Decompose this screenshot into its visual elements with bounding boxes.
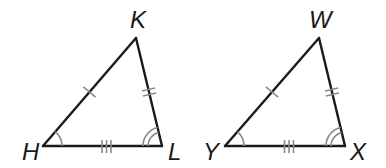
side-wx	[319, 38, 345, 146]
angle-arc-single-y	[238, 132, 245, 146]
angle-arc-double-l	[143, 128, 159, 147]
angle-arc-single-h	[55, 132, 62, 146]
triangle-ywx: Y W X	[203, 6, 367, 165]
vertex-label-l: L	[168, 138, 181, 165]
vertex-label-y: Y	[203, 138, 221, 165]
triangle-hkl: H K L	[22, 6, 181, 165]
vertex-label-h: H	[22, 138, 40, 165]
vertex-label-w: W	[309, 6, 334, 33]
angle-arc-double-x	[326, 128, 342, 147]
side-kl	[136, 38, 162, 146]
vertex-label-k: K	[130, 6, 147, 33]
congruent-triangles-diagram: H K L Y W X	[0, 0, 386, 168]
vertex-label-x: X	[349, 138, 367, 165]
